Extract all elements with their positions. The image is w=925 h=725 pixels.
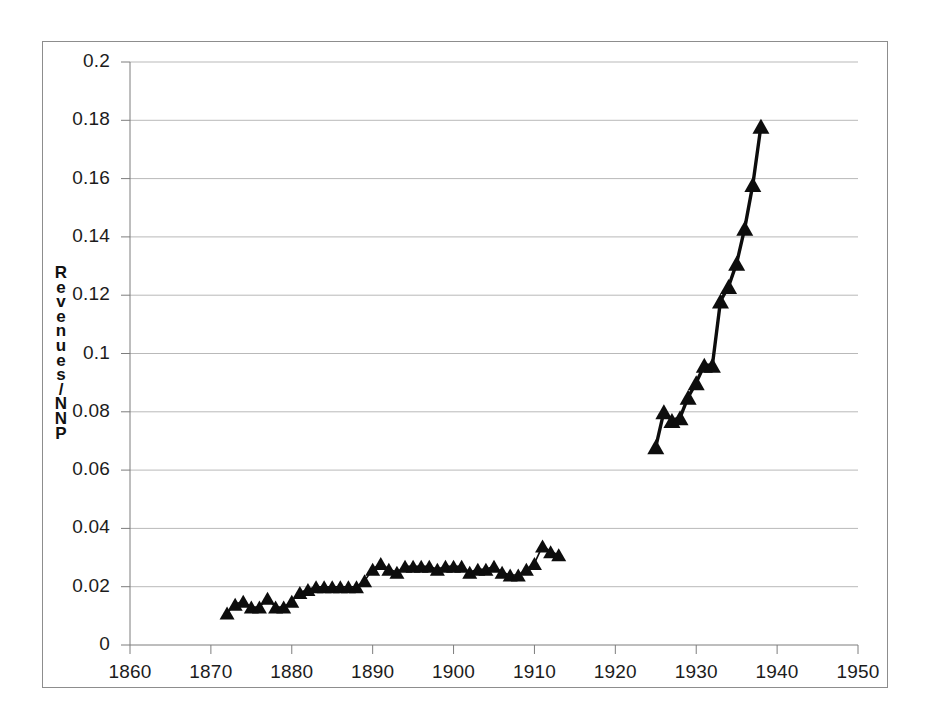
- series-marker: [728, 256, 745, 271]
- series-marker: [752, 119, 769, 134]
- series-marker: [680, 390, 697, 405]
- series-marker: [736, 221, 753, 236]
- data-series: [647, 119, 769, 455]
- series-marker: [260, 592, 275, 605]
- gridlines: [130, 62, 858, 587]
- data-series: [220, 539, 567, 619]
- series-marker: [357, 574, 372, 587]
- series-marker: [647, 439, 664, 454]
- series-marker: [744, 177, 761, 192]
- series-line: [656, 126, 761, 447]
- series-marker: [527, 557, 542, 570]
- x-axis-ticks: [130, 645, 858, 654]
- series-marker: [712, 294, 729, 309]
- series-marker: [688, 375, 705, 390]
- chart-figure: 0.20.180.160.140.120.10.080.060.040.020 …: [0, 0, 925, 725]
- series-marker: [720, 279, 737, 294]
- data-series-layer: [220, 119, 770, 620]
- y-axis-ticks: [121, 62, 130, 645]
- plot-area: [0, 0, 925, 725]
